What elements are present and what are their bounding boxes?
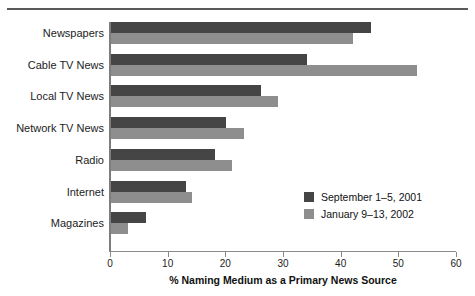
x-axis-tick-label: 40 (335, 258, 346, 269)
bar (111, 181, 186, 192)
legend-swatch (304, 209, 314, 219)
chart-figure: NewspapersCable TV NewsLocal TV NewsNetw… (0, 0, 475, 296)
category-label: Cable TV News (0, 59, 104, 71)
x-axis-tick (225, 252, 226, 257)
x-axis-tick (168, 252, 169, 257)
x-axis-tick (398, 252, 399, 257)
x-axis-tick-label: 20 (220, 258, 231, 269)
x-axis-tick (341, 252, 342, 257)
bar (111, 22, 371, 33)
bar (111, 65, 417, 76)
x-axis-tick-label: 30 (277, 258, 288, 269)
bar (111, 160, 232, 171)
bar (111, 85, 261, 96)
legend-item: January 9–13, 2002 (304, 205, 464, 222)
bar (111, 192, 192, 203)
category-label: Network TV News (0, 122, 104, 134)
legend-label: September 1–5, 2001 (321, 191, 422, 203)
x-axis-tick (110, 252, 111, 257)
bar (111, 117, 226, 128)
category-label: Internet (0, 186, 104, 198)
bar (111, 33, 353, 44)
bar (111, 223, 128, 234)
x-axis-tick-label: 0 (107, 258, 113, 269)
x-axis-tick (456, 252, 457, 257)
bar (111, 212, 146, 223)
plot-area: NewspapersCable TV NewsLocal TV NewsNetw… (0, 0, 475, 296)
category-label: Newspapers (0, 27, 104, 39)
legend-item: September 1–5, 2001 (304, 188, 464, 205)
category-label: Radio (0, 154, 104, 166)
y-axis-category-labels: NewspapersCable TV NewsLocal TV NewsNetw… (0, 22, 104, 244)
legend-label: January 9–13, 2002 (321, 208, 414, 220)
bar (111, 96, 278, 107)
bar (111, 128, 244, 139)
category-label: Local TV News (0, 90, 104, 102)
x-axis-tick-label: 60 (450, 258, 461, 269)
x-axis-tick (283, 252, 284, 257)
category-label: Magazines (0, 217, 104, 229)
legend: September 1–5, 2001January 9–13, 2002 (304, 188, 464, 222)
x-axis-tick-label: 50 (393, 258, 404, 269)
legend-swatch (304, 192, 314, 202)
x-axis-tick-label: 10 (162, 258, 173, 269)
x-axis-title: % Naming Medium as a Primary News Source (110, 274, 456, 286)
bar (111, 149, 215, 160)
bar (111, 54, 307, 65)
